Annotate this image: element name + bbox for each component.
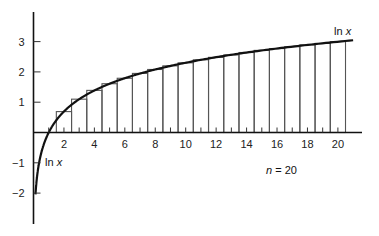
x-tick-label: 18 xyxy=(301,138,313,150)
rectangle-bar xyxy=(285,47,300,133)
y-tick-label: −1 xyxy=(12,157,25,169)
rectangle-bar xyxy=(117,78,132,132)
rectangle-bar xyxy=(193,60,208,133)
rectangle-bar xyxy=(269,49,284,133)
rectangle-bar xyxy=(178,63,193,133)
x-tick-label: 2 xyxy=(61,138,67,150)
n-label: n = 20 xyxy=(266,164,297,176)
y-tick-label: 3 xyxy=(18,36,24,48)
x-tick-label: 16 xyxy=(271,138,283,150)
rectangle-bar xyxy=(315,43,330,132)
rectangle-bar xyxy=(209,57,224,132)
x-tick-label: 20 xyxy=(332,138,344,150)
y-tick-label: −2 xyxy=(12,187,25,199)
rectangle-bar xyxy=(163,66,178,133)
x-tick-label: 6 xyxy=(122,138,128,150)
rectangle-bar xyxy=(254,50,269,132)
ln-x-riemann-chart: 2468101214161820−2−1123 ln x ln x n = 20 xyxy=(0,0,379,236)
rectangle-bar xyxy=(132,73,147,132)
rectangle-bar xyxy=(87,90,102,132)
x-tick-label: 4 xyxy=(91,138,97,150)
rectangle-bar xyxy=(239,53,254,133)
curve-label-left: ln x xyxy=(45,156,63,168)
x-tick-label: 10 xyxy=(180,138,192,150)
rectangle-bar xyxy=(300,45,315,133)
rectangle-bar xyxy=(148,69,163,132)
rectangle-bar xyxy=(224,55,239,133)
ln-x-curve xyxy=(35,40,353,194)
x-tick-label: 12 xyxy=(210,138,222,150)
rectangle-bar xyxy=(102,84,117,133)
y-tick-label: 2 xyxy=(18,66,24,78)
x-tick-label: 8 xyxy=(152,138,158,150)
x-tick-label: 14 xyxy=(240,138,252,150)
y-tick-label: 1 xyxy=(18,96,24,108)
curve-label-top: ln x xyxy=(334,25,352,37)
rectangle-bar xyxy=(330,42,345,133)
